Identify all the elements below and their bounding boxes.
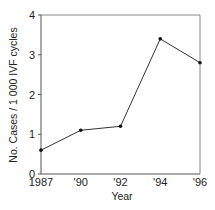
y-tick-label: 1 <box>29 128 35 140</box>
x-axis-title: Year <box>111 190 133 202</box>
x-axis-labels: 1987'90'92'94'96 <box>29 176 207 188</box>
data-point-marker <box>119 125 123 129</box>
y-tick-label: 2 <box>29 89 35 101</box>
y-tick-label: 3 <box>29 49 35 61</box>
plot-frame <box>41 15 200 174</box>
y-tick-label: 4 <box>29 9 35 21</box>
data-point-marker <box>158 37 162 41</box>
x-tick-label: '90 <box>74 176 88 188</box>
x-tick-label: '92 <box>113 176 127 188</box>
line-chart: 01234 1987'90'92'94'96 Year No. Cases / … <box>0 0 215 210</box>
data-point-marker <box>79 128 83 132</box>
data-point-marker <box>198 61 202 65</box>
data-point-marker <box>39 148 43 152</box>
series-line <box>41 39 200 150</box>
x-tick-label: 1987 <box>29 176 53 188</box>
y-axis-ticks: 01234 <box>29 9 41 180</box>
x-tick-label: '94 <box>153 176 167 188</box>
data-series <box>39 37 202 152</box>
x-tick-label: '96 <box>193 176 207 188</box>
y-axis-title: No. Cases / 1 000 IVF cycles <box>7 27 19 162</box>
